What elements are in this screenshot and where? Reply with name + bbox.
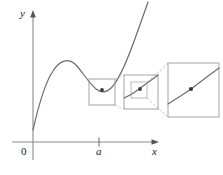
tangent-point-2	[138, 87, 142, 91]
origin-label: 0	[21, 146, 27, 157]
x-axis-label: x	[152, 146, 157, 157]
local-linearity-figure	[0, 0, 223, 175]
tangent-point-1	[100, 88, 104, 92]
tangent-point-3	[189, 87, 193, 91]
y-axis-label: y	[20, 8, 25, 19]
x-tick-label-a: a	[96, 146, 102, 157]
